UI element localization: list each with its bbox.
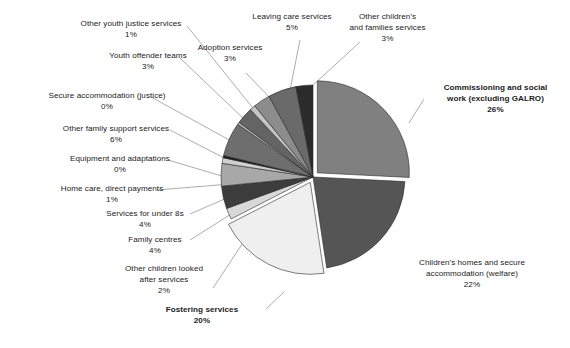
leader-line (246, 73, 272, 100)
leader-line (312, 42, 360, 86)
slice-label-other-family-support-services: Other family support services 6% (26, 123, 206, 145)
label-value: 4% (60, 219, 230, 230)
label-line: Fostering services (137, 304, 267, 315)
slice-label-childrens-homes-and-secure-accommodation: Children's homes and secure accommodatio… (398, 257, 546, 291)
pie-chart-page: Other youth justice services 1% Youth of… (0, 0, 570, 348)
slice-label-secure-accommodation-justice: Secure accommodation (justice) 0% (12, 90, 202, 112)
label-value: 2% (84, 285, 244, 296)
label-line: Other family support services (26, 123, 206, 134)
slice-label-other-children-looked-after-services: Other children looked after services 2% (84, 263, 244, 297)
label-line: Secure accommodation (justice) (12, 90, 202, 101)
label-value: 1% (31, 29, 231, 40)
label-value: 3% (325, 33, 450, 44)
label-line: accommodation (welfare) (398, 268, 546, 279)
slice-label-fostering-services: Fostering services 20% (137, 304, 267, 326)
label-value: 0% (12, 101, 202, 112)
label-line: work (excluding GALRO) (428, 93, 563, 104)
label-line: Other children looked (84, 263, 244, 274)
leader-line (409, 99, 424, 123)
slice-label-other-youth-justice-services: Other youth justice services 1% (31, 18, 231, 40)
pie-slice[interactable] (313, 177, 405, 268)
slice-label-adoption-services: Adoption services 3% (160, 42, 300, 64)
label-value: 26% (428, 104, 563, 115)
slice-label-commissioning-and-social-work: Commissioning and social work (excluding… (428, 82, 563, 116)
slice-label-equipment-and-adaptations: Equipment and adaptations 0% (34, 153, 206, 175)
pie-slices-group (221, 81, 409, 274)
label-value: 4% (75, 245, 235, 256)
pie-slice[interactable] (317, 81, 409, 178)
slice-label-family-centres: Family centres 4% (75, 234, 235, 256)
label-line: Services for under 8s (60, 208, 230, 219)
label-line: Equipment and adaptations (34, 153, 206, 164)
label-line: after services (84, 274, 244, 285)
label-line: Adoption services (160, 42, 300, 53)
slice-label-services-for-under-8s: Services for under 8s 4% (60, 208, 230, 230)
label-line: Children's homes and secure (398, 257, 546, 268)
label-value: 1% (22, 194, 202, 205)
label-line: Family centres (75, 234, 235, 245)
label-line: Other youth justice services (31, 18, 231, 29)
label-value: 22% (398, 279, 546, 290)
label-value: 3% (160, 53, 300, 64)
label-value: 0% (34, 164, 206, 175)
label-line: Home care, direct payments (22, 183, 202, 194)
label-value: 6% (26, 134, 206, 145)
leader-line (266, 292, 284, 309)
label-value: 20% (137, 315, 267, 326)
label-line: Other children's (325, 11, 450, 22)
label-line: and families services (325, 22, 450, 33)
slice-label-home-care-direct-payments: Home care, direct payments 1% (22, 183, 202, 205)
slice-label-other-childrens-and-families-services: Other children's and families services 3… (325, 11, 450, 45)
label-line: Commissioning and social (428, 82, 563, 93)
